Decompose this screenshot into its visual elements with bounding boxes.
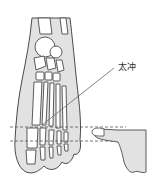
taichong-label: 太冲 (118, 62, 136, 72)
pointing-hand (92, 128, 146, 173)
diagram-canvas: 太冲 (0, 0, 158, 187)
foot-anatomy-illustration (0, 0, 158, 187)
